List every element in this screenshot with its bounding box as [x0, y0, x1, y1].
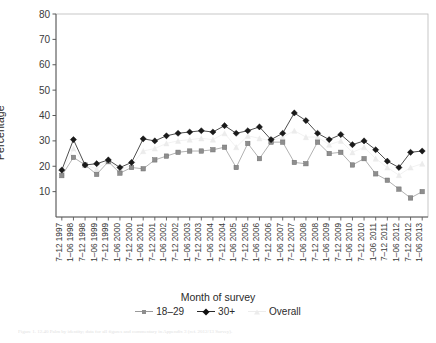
y-tick-label: 20 — [39, 161, 51, 172]
x-tick-label: 7–12 2012 — [404, 223, 413, 262]
chart-legend: 18–29 30+ Overall — [0, 306, 436, 317]
x-tick-label: 7–12 2000 — [125, 223, 134, 262]
x-tick-label: 1–06 1998 — [66, 223, 75, 262]
y-tick-label: 50 — [39, 85, 51, 96]
x-tick-label: 1–06 2001 — [136, 223, 145, 262]
x-tick-label: 1–06 2012 — [392, 223, 401, 262]
legend-swatch-30-plus-icon — [197, 311, 215, 312]
legend-swatch-overall-icon — [248, 311, 266, 312]
x-tick-label: 1–06 2005 — [229, 223, 238, 262]
diamond-marker-icon — [203, 308, 210, 315]
legend-label-overall: Overall — [269, 306, 301, 317]
x-tick-label: 1–06 2011 — [369, 223, 378, 262]
x-tick-label: 7–12 2006 — [264, 223, 273, 262]
y-tick-label: 40 — [39, 110, 51, 121]
y-tick-label: 70 — [39, 34, 51, 45]
x-tick-label: 1–06 2002 — [159, 223, 168, 262]
figure-caption: Figure 1. 12.40 Palm by identity; data f… — [18, 329, 428, 335]
x-tick-label: 1–06 1999 — [90, 223, 99, 262]
x-tick-label: 1–06 2010 — [345, 223, 354, 262]
x-tick-label: 7–12 1999 — [101, 223, 110, 262]
x-tick-label: 7–12 2005 — [241, 223, 250, 262]
series-overall — [59, 128, 425, 178]
legend-item-18-29[interactable]: 18–29 — [135, 306, 184, 317]
x-tick-label: 7–12 1998 — [78, 223, 87, 262]
x-tick-label: 7–12 2009 — [334, 223, 343, 262]
triangle-marker-icon — [254, 309, 260, 314]
figure-container: Percentage 10203040506070807–12 19971–06… — [0, 0, 436, 343]
legend-swatch-18-29-icon — [135, 311, 153, 312]
x-tick-label: 7–12 2007 — [287, 223, 296, 262]
legend-label-18-29: 18–29 — [156, 306, 184, 317]
x-tick-label: 1–06 2007 — [276, 223, 285, 262]
y-tick-label: 10 — [39, 186, 51, 197]
x-tick-label: 7–12 2010 — [357, 223, 366, 262]
y-tick-label: 60 — [39, 59, 51, 70]
series-18-29 — [60, 140, 425, 200]
x-tick-label: 7–12 2002 — [171, 223, 180, 262]
y-tick-label: 80 — [39, 9, 51, 20]
x-tick-label: 1–06 2000 — [113, 223, 122, 262]
x-tick-label: 7–12 2001 — [148, 223, 157, 262]
x-tick-label: 1–06 2003 — [183, 223, 192, 262]
x-tick-label: 7–12 2008 — [311, 223, 320, 262]
x-tick-label: 1–06 2008 — [299, 223, 308, 262]
x-tick-label: 7–12 2011 — [380, 223, 389, 262]
legend-item-overall[interactable]: Overall — [248, 306, 301, 317]
x-tick-label: 1–06 2013 — [415, 223, 424, 262]
legend-label-30-plus: 30+ — [218, 306, 235, 317]
y-tick-label: 30 — [39, 135, 51, 146]
legend-item-30-plus[interactable]: 30+ — [197, 306, 235, 317]
x-tick-label: 1–06 2009 — [322, 223, 331, 262]
x-tick-label: 7–12 2004 — [218, 223, 227, 262]
x-tick-label: 7–12 1997 — [55, 223, 64, 262]
x-tick-label: 7–12 2003 — [194, 223, 203, 262]
x-axis-title: Month of survey — [0, 291, 436, 303]
x-tick-label: 1–06 2006 — [252, 223, 261, 262]
x-tick-label: 1–06 2004 — [206, 223, 215, 262]
square-marker-icon — [142, 310, 146, 314]
